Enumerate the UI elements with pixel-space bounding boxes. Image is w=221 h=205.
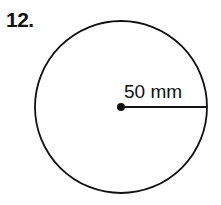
radius-label: 50 mm (124, 81, 182, 102)
circle-diagram: 50 mm (0, 0, 221, 205)
center-point (117, 103, 125, 111)
